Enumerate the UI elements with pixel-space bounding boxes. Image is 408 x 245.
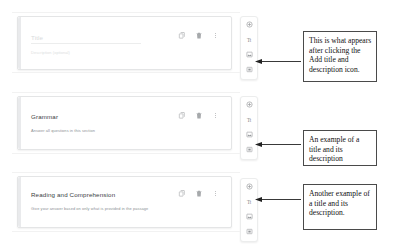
form-section-block-2[interactable]: Grammar Answer all questions in this sec… <box>17 96 232 150</box>
page-divider-2-top <box>12 92 240 93</box>
section-description-input[interactable]: Give your answer based on only what is p… <box>31 206 148 211</box>
annotation-box-2: An example of a title and its descriptio… <box>303 130 377 166</box>
form-section-block-1[interactable]: Title Description (optional) <box>17 16 232 70</box>
screenshot-canvas: Title Description (optional) <box>0 0 408 245</box>
annotation-arrow-3 <box>254 196 302 203</box>
section-title-input[interactable]: Grammar <box>31 113 58 120</box>
annotation-arrow-1 <box>254 58 302 65</box>
page-divider-3-bottom <box>12 231 240 232</box>
dot <box>215 37 216 38</box>
add-video-button[interactable] <box>241 224 257 239</box>
section-title-input[interactable]: Title <box>31 34 43 41</box>
add-image-button[interactable] <box>241 209 257 224</box>
dot <box>215 191 216 192</box>
add-image-button[interactable] <box>241 127 257 142</box>
title-description-icon: Tt <box>247 199 251 205</box>
add-video-button[interactable] <box>241 62 257 77</box>
page-divider-3-top <box>12 172 240 173</box>
form-toolbar-1[interactable]: Tt <box>240 16 258 80</box>
delete-icon[interactable] <box>195 111 203 120</box>
title-underline <box>31 43 141 44</box>
dot <box>215 195 216 196</box>
section-actions <box>178 31 219 40</box>
card-accent-bar <box>18 177 21 227</box>
dot <box>215 33 216 34</box>
duplicate-icon[interactable] <box>178 111 186 120</box>
section-actions <box>178 189 219 198</box>
add-question-button[interactable] <box>241 17 257 32</box>
add-question-button[interactable] <box>241 179 257 194</box>
title-description-icon: Tt <box>247 117 251 123</box>
section-title-input[interactable]: Reading and Comprehension <box>31 191 115 198</box>
title-description-icon: Tt <box>247 37 251 43</box>
dot <box>215 113 216 114</box>
section-card[interactable]: Grammar Answer all questions in this sec… <box>17 96 232 150</box>
duplicate-icon[interactable] <box>178 31 186 40</box>
annotation-text: An example of a title and its descriptio… <box>309 135 359 163</box>
add-title-description-button[interactable]: Tt <box>241 32 257 47</box>
form-toolbar-3[interactable]: Tt <box>240 178 258 242</box>
form-toolbar-2[interactable]: Tt <box>240 96 258 160</box>
dot <box>215 115 216 116</box>
page-divider-2-bottom <box>12 153 240 154</box>
annotation-text: This is what appears after clicking the … <box>309 36 371 74</box>
add-title-description-button[interactable]: Tt <box>241 194 257 209</box>
section-description-input[interactable]: Description (optional) <box>31 50 70 55</box>
page-divider-1-bottom <box>12 72 240 73</box>
delete-icon[interactable] <box>195 189 203 198</box>
section-actions <box>178 111 219 120</box>
annotation-box-3: Another example of a title and its descr… <box>303 184 377 230</box>
duplicate-icon[interactable] <box>178 189 186 198</box>
dot <box>215 35 216 36</box>
add-title-description-button[interactable]: Tt <box>241 112 257 127</box>
section-card[interactable]: Title Description (optional) <box>17 16 232 70</box>
section-description-input[interactable]: Answer all questions in this section <box>31 128 95 133</box>
more-options-icon[interactable] <box>212 189 219 198</box>
dot <box>215 117 216 118</box>
more-options-icon[interactable] <box>212 111 219 120</box>
dot <box>215 193 216 194</box>
add-video-button[interactable] <box>241 142 257 157</box>
form-section-block-3[interactable]: Reading and Comprehension Give your answ… <box>17 176 232 228</box>
annotation-arrow-2 <box>254 141 302 148</box>
more-options-icon[interactable] <box>212 31 219 40</box>
section-card[interactable]: Reading and Comprehension Give your answ… <box>17 176 232 228</box>
delete-icon[interactable] <box>195 31 203 40</box>
page-divider-top <box>12 12 240 13</box>
add-question-button[interactable] <box>241 97 257 112</box>
annotation-text: Another example of a title and its descr… <box>309 189 370 217</box>
card-accent-bar <box>18 97 21 149</box>
add-image-button[interactable] <box>241 47 257 62</box>
card-accent-bar <box>18 17 21 69</box>
annotation-box-1: This is what appears after clicking the … <box>303 31 377 82</box>
